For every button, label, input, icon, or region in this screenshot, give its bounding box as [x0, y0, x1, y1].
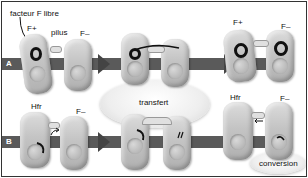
arrow-b-1-icon: [98, 132, 110, 152]
f-plasmid-a3-2-icon: [274, 41, 288, 56]
pilus-a1: [50, 46, 62, 53]
hfr-label-b3: Hfr: [230, 93, 241, 102]
f-plus-label-a3: F+: [233, 18, 243, 27]
f-minus-cell-b3: [265, 102, 293, 160]
row-label-b: B: [6, 136, 12, 148]
conjugation-bridge-b2: [142, 117, 172, 125]
arrow-a-1-icon: [98, 54, 110, 74]
f-minus-label-a1: F–: [80, 29, 89, 38]
transfer-arrow-b1-icon: [50, 128, 60, 136]
transfer-arrow-b3-icon: [254, 118, 264, 124]
hfr-cell-b3: [223, 102, 253, 160]
new-f-plus-cell-a3: [266, 30, 294, 82]
transferred-dna-b2-icon: [176, 131, 184, 139]
conversion-label: conversion: [259, 159, 298, 168]
row-label-a: A: [6, 58, 12, 70]
f-plus-cell-a1: [18, 32, 54, 95]
hfr-label-b1: Hfr: [31, 102, 42, 111]
pilus-label: pilus: [51, 28, 67, 37]
hfr-cell-b1: [20, 112, 50, 168]
transfer-label: transfert: [139, 98, 168, 107]
recombined-dna-b3-icon: [276, 135, 286, 143]
diagram-frame: transfert conversion A B facteur F libre…: [1, 1, 307, 177]
transferring-strand-a2-icon: [135, 44, 185, 54]
integrated-f-factor-b2-icon: [135, 129, 147, 141]
f-minus-cell-b1: [60, 116, 88, 170]
f-plus-label-a1: F+: [27, 24, 37, 33]
integrated-f-factor-b1-icon: [35, 142, 47, 154]
pilus-a3: [253, 40, 269, 47]
f-plasmid-a3-1-icon: [234, 43, 248, 58]
f-plasmid-a1-icon: [30, 47, 42, 61]
f-minus-cell-a1: [64, 39, 92, 91]
f-minus-label-b1: F–: [76, 107, 85, 116]
